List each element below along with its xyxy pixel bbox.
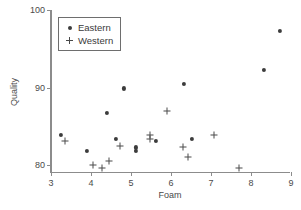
x-tick: [211, 172, 212, 176]
x-tick-label: 7: [208, 178, 213, 188]
scatter-plot-figure: Quality 8090100 3456789 Foam Eastern Wes…: [0, 0, 301, 210]
x-tick: [251, 172, 252, 176]
y-tick: [47, 88, 51, 89]
x-tick-label: 8: [248, 178, 253, 188]
y-tick: [47, 165, 51, 166]
data-point-eastern: [85, 149, 89, 153]
y-tick-label: 90: [35, 83, 45, 93]
data-point-western: [211, 131, 218, 138]
data-point-eastern: [134, 149, 138, 153]
dot-marker-icon: [64, 22, 76, 33]
data-point-eastern: [59, 133, 63, 137]
data-point-eastern: [190, 137, 194, 141]
y-axis-label: Quality: [9, 77, 19, 105]
data-point-western: [90, 162, 97, 169]
plus-marker-icon: [64, 35, 76, 46]
x-tick-label: 6: [168, 178, 173, 188]
y-axis-spine: [51, 10, 52, 172]
data-point-western: [164, 107, 171, 114]
x-tick: [171, 172, 172, 176]
legend: Eastern Western: [58, 17, 121, 51]
data-point-western: [62, 138, 69, 145]
data-point-western: [99, 165, 106, 172]
data-point-western: [236, 164, 243, 171]
data-point-eastern: [105, 111, 109, 115]
data-point-eastern: [154, 139, 158, 143]
data-point-eastern: [262, 68, 266, 72]
data-point-western: [106, 157, 113, 164]
x-tick-label: 9: [288, 178, 293, 188]
legend-item-eastern: Eastern: [64, 21, 113, 34]
y-tick-label: 80: [35, 160, 45, 170]
x-tick-label: 5: [128, 178, 133, 188]
x-axis-label: Foam: [50, 190, 290, 200]
data-point-western: [180, 144, 187, 151]
y-axis-label-container: Quality: [2, 10, 16, 173]
y-tick-label: 100: [30, 5, 45, 15]
data-point-eastern: [278, 29, 282, 33]
data-point-eastern: [114, 137, 118, 141]
data-point-eastern: [122, 86, 126, 90]
legend-label: Western: [78, 35, 113, 46]
x-tick-label: 3: [48, 178, 53, 188]
legend-item-western: Western: [64, 34, 113, 47]
legend-label: Eastern: [78, 22, 111, 33]
data-point-western: [147, 135, 154, 142]
data-point-western: [184, 153, 191, 160]
x-tick: [131, 172, 132, 176]
x-tick: [291, 172, 292, 176]
data-point-eastern: [182, 82, 186, 86]
x-tick: [91, 172, 92, 176]
data-point-western: [116, 142, 123, 149]
x-tick-label: 4: [88, 178, 93, 188]
x-tick: [51, 172, 52, 176]
y-tick: [47, 10, 51, 11]
